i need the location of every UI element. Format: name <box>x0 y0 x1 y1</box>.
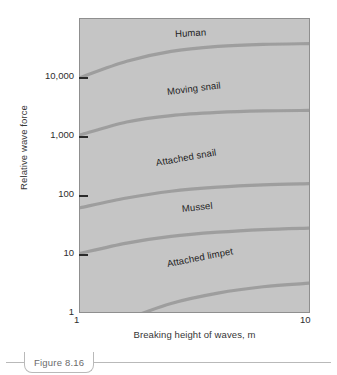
plot-area <box>79 18 310 313</box>
x-axis-title: Breaking height of waves, m <box>79 329 310 340</box>
curve-label-human: Human <box>175 26 207 39</box>
curve-human <box>80 44 309 78</box>
y-axis-title: Relative wave force <box>18 78 29 218</box>
x-axis-tick-label-min: 1 <box>74 314 79 325</box>
y-axis-tick-mark <box>79 136 88 138</box>
figure-container: 1101001,00010,000 1 10 Relative wave for… <box>0 0 337 375</box>
curve-mussel <box>80 228 309 253</box>
x-axis-tick-label-max: 10 <box>300 314 311 325</box>
y-axis-tick-mark <box>79 254 88 256</box>
y-axis-tick-label: 10 <box>10 247 74 258</box>
figure-caption-tab: Figure 8.16 <box>24 352 94 373</box>
figure-caption-band: Figure 8.16 <box>0 352 337 375</box>
figure-caption-text: Figure 8.16 <box>34 357 84 368</box>
curve-moving-snail <box>80 110 309 135</box>
y-axis-tick-label: 1 <box>10 306 74 317</box>
chart-curves <box>80 19 309 312</box>
y-axis-tick-mark <box>79 195 88 197</box>
y-axis-tick-mark <box>79 77 88 79</box>
curve-attached-limpet <box>80 283 309 312</box>
